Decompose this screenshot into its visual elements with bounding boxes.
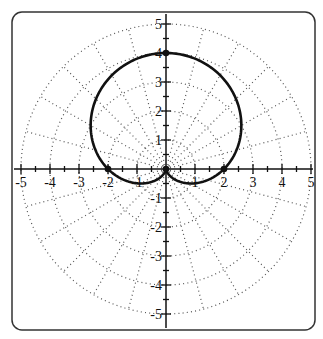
y-tick-label: -1 <box>150 191 162 206</box>
y-tick-label: 2 <box>155 104 162 119</box>
point-marker <box>105 166 112 173</box>
point-marker <box>221 166 228 173</box>
x-tick-label: -5 <box>15 175 27 190</box>
x-tick-label: 2 <box>221 175 228 190</box>
y-tick-label: -5 <box>150 307 162 322</box>
x-tick-label: -3 <box>73 175 85 190</box>
y-tick-label: -2 <box>150 220 162 235</box>
point-marker <box>163 166 170 173</box>
y-tick-label: -3 <box>150 249 162 264</box>
polar-chart: -5-4-3-2-11234554321-1-2-3-4-5 <box>0 0 323 339</box>
point-marker <box>163 50 170 57</box>
x-tick-label: -2 <box>102 175 114 190</box>
y-tick-label: 1 <box>155 133 162 148</box>
x-tick-label: 5 <box>308 175 315 190</box>
x-tick-label: 3 <box>250 175 257 190</box>
y-tick-label: 3 <box>155 75 162 90</box>
x-tick-label: -4 <box>44 175 56 190</box>
y-tick-label: 5 <box>155 17 162 32</box>
y-tick-label: -4 <box>150 278 162 293</box>
x-tick-label: 4 <box>279 175 286 190</box>
